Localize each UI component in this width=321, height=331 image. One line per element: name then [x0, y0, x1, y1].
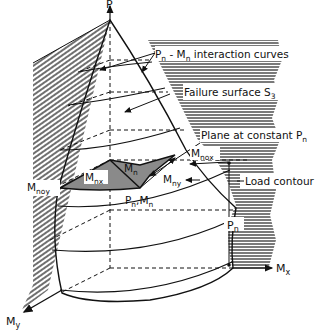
pn-mn-point-label: Pn,Mn — [125, 194, 154, 209]
load-contour-label: Load contour — [245, 175, 315, 187]
mx-axis-label: Mx — [276, 262, 291, 277]
pmy-plane-hatch — [22, 20, 110, 310]
p-axis-label: P — [106, 0, 113, 11]
mny-label: Mny — [163, 173, 182, 188]
interaction-surface-diagram: P Mx My — [0, 0, 321, 331]
my-axis-label: My — [6, 315, 21, 330]
